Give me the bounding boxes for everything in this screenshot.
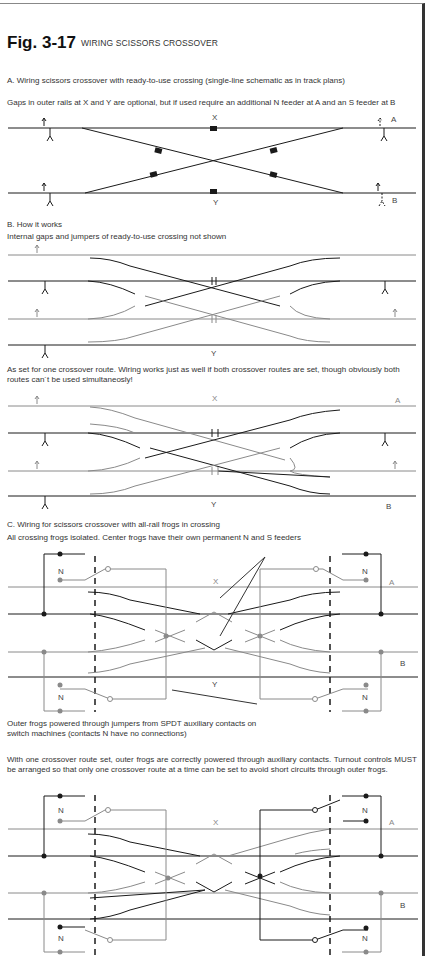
- label-y: Y: [211, 349, 216, 358]
- section-b-note2: As set for one crossover route. Wiring w…: [7, 365, 417, 385]
- label-n: N: [362, 806, 368, 815]
- insulated-gaps: [150, 126, 278, 194]
- label-b: B: [400, 901, 405, 910]
- diagram-b2: [8, 396, 416, 509]
- label-x: X: [213, 577, 218, 586]
- label-n: N: [362, 693, 368, 702]
- section-b-note: Internal gaps and jumpers of ready-to-us…: [7, 232, 417, 242]
- label-n: N: [58, 806, 64, 815]
- label-n: N: [58, 693, 64, 702]
- label-a: A: [391, 115, 396, 124]
- label-y: Y: [213, 198, 218, 207]
- label-x: X: [212, 394, 217, 403]
- section-c-note: All crossing frogs isolated. Center frog…: [7, 533, 417, 543]
- label-n: N: [58, 934, 64, 943]
- label-a: A: [389, 818, 394, 827]
- label-y: Y: [211, 500, 216, 509]
- label-b: B: [392, 196, 397, 205]
- label-n: N: [58, 567, 64, 576]
- label-b: B: [400, 659, 405, 668]
- diagram-b1: [8, 245, 416, 358]
- label-n: N: [362, 934, 368, 943]
- section-c-caption: Outer frogs powered through jumpers from…: [7, 719, 262, 739]
- label-x: X: [212, 113, 217, 122]
- label-a: A: [395, 396, 400, 405]
- section-c-heading: C. Wiring for scissors crossover with al…: [7, 520, 417, 530]
- section-b-heading: B. How it works: [7, 220, 417, 230]
- label-b: B: [386, 502, 391, 511]
- section-c-note2: With one crossover route set, outer frog…: [7, 755, 417, 775]
- label-n: N: [362, 567, 368, 576]
- label-x: X: [213, 818, 218, 827]
- label-a: A: [389, 578, 394, 587]
- label-y: Y: [212, 680, 217, 689]
